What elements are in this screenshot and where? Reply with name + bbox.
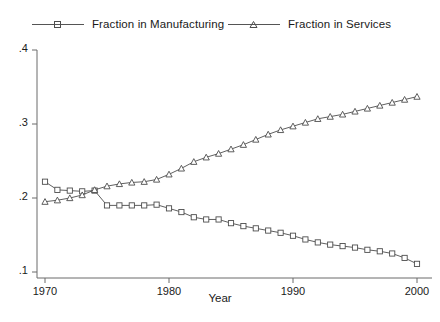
triangle-marker-icon <box>240 142 246 148</box>
square-marker-icon <box>191 215 196 220</box>
square-marker-icon <box>241 224 246 229</box>
square-marker-icon <box>352 245 357 250</box>
square-marker-icon <box>42 179 47 184</box>
square-marker-icon <box>204 217 209 222</box>
legend-line-manufacturing <box>32 18 84 30</box>
chart-legend: Fraction in Manufacturing Fraction in Se… <box>0 14 440 36</box>
y-axis-tick-label: .4 <box>0 42 28 54</box>
triangle-marker-icon <box>253 136 259 142</box>
triangle-marker-icon <box>166 171 172 177</box>
triangle-marker-icon <box>228 146 234 152</box>
series-services <box>42 94 420 205</box>
square-marker-icon <box>53 20 62 29</box>
square-marker-icon <box>117 203 122 208</box>
square-marker-icon <box>340 244 345 249</box>
triangle-marker-icon <box>216 151 222 157</box>
square-marker-icon <box>402 255 407 260</box>
legend-line-services <box>228 18 280 30</box>
square-marker-icon <box>414 261 419 266</box>
series-manufacturing <box>42 179 419 266</box>
triangle-marker-icon <box>414 94 420 100</box>
square-marker-icon <box>154 202 159 207</box>
plot-area <box>0 0 440 322</box>
chart-figure: Fraction in Manufacturing Fraction in Se… <box>0 0 440 322</box>
square-marker-icon <box>179 209 184 214</box>
square-marker-icon <box>377 249 382 254</box>
square-marker-icon <box>290 233 295 238</box>
y-axis-tick-label: .3 <box>0 116 28 128</box>
legend-item-manufacturing[interactable]: Fraction in Manufacturing <box>32 14 224 34</box>
square-marker-icon <box>55 187 60 192</box>
square-marker-icon <box>390 251 395 256</box>
square-marker-icon <box>142 203 147 208</box>
x-axis-title: Year <box>0 292 440 304</box>
square-marker-icon <box>166 206 171 211</box>
triangle-marker-icon <box>265 131 271 137</box>
square-marker-icon <box>216 217 221 222</box>
legend-label-manufacturing: Fraction in Manufacturing <box>92 18 224 30</box>
square-marker-icon <box>365 247 370 252</box>
triangle-marker-icon <box>178 165 184 171</box>
legend-item-services[interactable]: Fraction in Services <box>228 14 391 34</box>
square-marker-icon <box>328 242 333 247</box>
square-marker-icon <box>228 221 233 226</box>
square-marker-icon <box>315 240 320 245</box>
square-marker-icon <box>303 237 308 242</box>
y-axis-tick-label: .1 <box>0 264 28 276</box>
y-axis-tick-label: .2 <box>0 190 28 202</box>
triangle-marker-icon <box>191 159 197 165</box>
triangle-marker-icon <box>249 20 258 29</box>
square-marker-icon <box>266 228 271 233</box>
square-marker-icon <box>67 188 72 193</box>
square-marker-icon <box>253 226 258 231</box>
triangle-marker-icon <box>154 176 160 182</box>
square-marker-icon <box>104 203 109 208</box>
square-marker-icon <box>278 230 283 235</box>
legend-label-services: Fraction in Services <box>288 18 391 30</box>
square-marker-icon <box>129 203 134 208</box>
